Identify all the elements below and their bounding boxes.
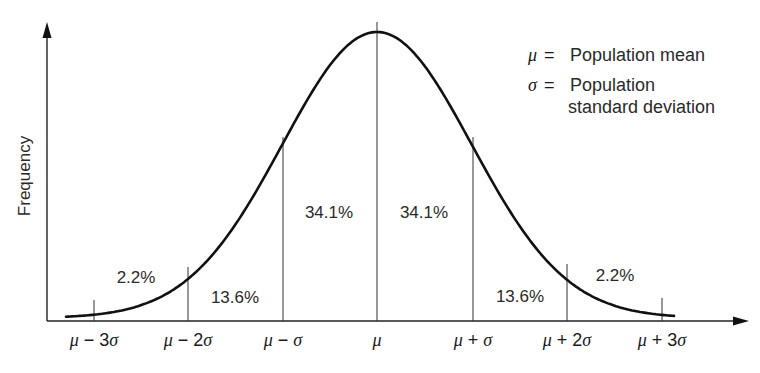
legend-sigma-text-line1: Population <box>570 75 655 95</box>
y-axis-arrow-icon <box>43 22 52 38</box>
region-label-left-1: 34.1% <box>305 203 353 222</box>
legend-mu-text: Population mean <box>570 45 705 65</box>
sigma-divider-lines <box>94 22 662 321</box>
x-tick-mean: μ <box>371 330 381 350</box>
x-tick-minus-3-sigma: μ−3σ <box>69 330 120 350</box>
legend-sigma-text-line2: standard deviation <box>568 97 715 117</box>
region-label-right-tail: 2.2% <box>596 266 635 285</box>
region-label-right-1: 34.1% <box>400 203 448 222</box>
region-label-left-tail: 2.2% <box>117 268 156 287</box>
legend-sigma-equals: = <box>544 75 555 95</box>
normal-distribution-chart: Frequency 2.2% 13.6% 34.1% 34.1% 13.6% 2… <box>0 0 760 373</box>
y-axis-label: Frequency <box>15 135 34 216</box>
region-labels: 2.2% 13.6% 34.1% 34.1% 13.6% 2.2% <box>117 203 635 307</box>
legend-sigma-symbol: σ <box>528 75 538 95</box>
x-tick-plus-1-sigma: μ+σ <box>453 330 494 350</box>
x-tick-plus-3-sigma: μ+3σ <box>637 330 688 350</box>
legend-mu-equals: = <box>544 45 555 65</box>
region-label-left-2: 13.6% <box>211 288 259 307</box>
x-tick-minus-1-sigma: μ−σ <box>263 330 304 350</box>
x-axis-arrow-icon <box>733 317 749 326</box>
x-tick-minus-2-sigma: μ−2σ <box>163 330 214 350</box>
legend-mu-symbol: μ <box>527 45 537 65</box>
region-label-right-2: 13.6% <box>496 287 544 306</box>
legend: μ = Population mean σ = Population stand… <box>527 45 715 117</box>
x-tick-labels: μ−3σ μ−2σ μ−σ μ μ+σ μ+2σ μ+3σ <box>69 330 688 350</box>
x-tick-plus-2-sigma: μ+2σ <box>542 330 593 350</box>
